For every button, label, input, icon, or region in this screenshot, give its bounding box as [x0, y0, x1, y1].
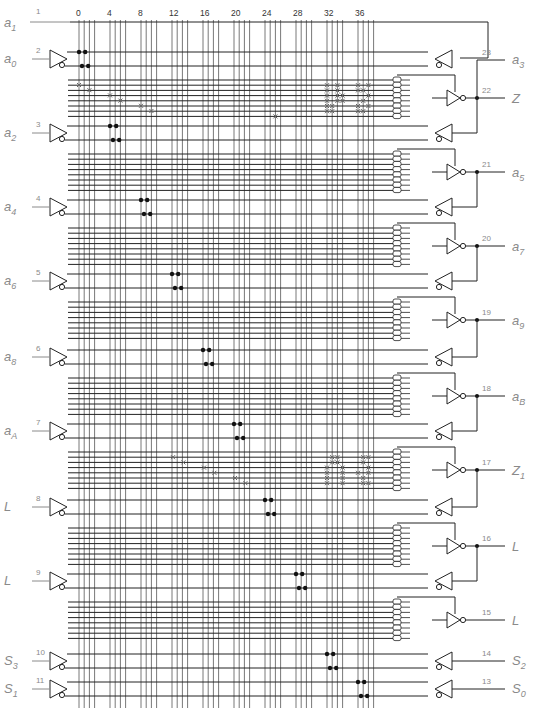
and-gate-icon [393, 235, 401, 240]
column-number: 12 [169, 8, 179, 18]
connection-dot [235, 436, 239, 440]
pal-logic-diagram: 04812162024283236a11a02a23a44a65a86aA7L8… [0, 0, 540, 718]
connection-dot [365, 694, 369, 698]
and-gate-icon [393, 82, 401, 87]
connection-dot [142, 212, 146, 216]
and-gate-icon [393, 411, 401, 416]
invert-bubble-icon [59, 664, 64, 669]
and-gate-icon [393, 535, 401, 540]
invert-bubble-icon [436, 692, 441, 697]
connection-dot [201, 348, 205, 352]
invert-bubble-icon [460, 95, 465, 100]
pin-number: 21 [482, 160, 491, 169]
and-gate-icon [393, 256, 401, 261]
column-number: 0 [76, 8, 81, 18]
and-gate-icon [393, 225, 401, 230]
and-gate-icon [393, 108, 401, 113]
invert-bubble-icon [460, 243, 465, 248]
and-gate-icon [393, 465, 401, 470]
connection-dot [111, 138, 115, 142]
connection-dot [117, 138, 121, 142]
and-gate-icon [393, 406, 401, 411]
connection-dot [170, 272, 174, 276]
column-number: 28 [293, 8, 303, 18]
and-gate-icon [393, 182, 401, 187]
input-label: S1 [4, 681, 18, 699]
output-inverter-icon [447, 238, 460, 254]
input-buffer-6 [50, 348, 67, 366]
and-gate-icon [393, 230, 401, 235]
connection-dot [77, 50, 81, 54]
and-gate-icon [393, 325, 401, 330]
and-gate-icon [393, 151, 401, 156]
and-gate-icon [393, 177, 401, 182]
and-gate-icon [393, 459, 401, 464]
column-number: 36 [355, 8, 365, 18]
input-label: L [4, 573, 11, 588]
invert-bubble-icon [460, 317, 465, 322]
invert-bubble-icon [460, 467, 465, 472]
output-label: a7 [512, 239, 525, 257]
invert-bubble-icon [59, 510, 64, 515]
input-label: aA [4, 423, 17, 441]
column-number: 8 [138, 8, 143, 18]
column-number: 20 [231, 8, 241, 18]
and-gate-icon [393, 375, 401, 380]
pin-number: 16 [482, 534, 491, 543]
and-gate-icon [393, 620, 401, 625]
column-number: 4 [107, 8, 112, 18]
pin-number: 14 [482, 649, 491, 658]
and-gate-icon [393, 525, 401, 530]
and-gate-icon [393, 625, 401, 630]
invert-bubble-icon [59, 62, 64, 67]
and-gate-icon [393, 380, 401, 385]
and-gate-icon [393, 449, 401, 454]
and-gate-icon [393, 541, 401, 546]
input-buffer-10 [50, 652, 67, 670]
connection-dot [334, 666, 338, 670]
and-gate-icon [393, 454, 401, 459]
and-gate-icon [393, 551, 401, 556]
connection-dot [114, 124, 118, 128]
input-buffer-9 [50, 572, 67, 590]
and-gate-icon [393, 630, 401, 635]
input-label: a6 [4, 273, 16, 291]
connection-dot [139, 198, 143, 202]
and-gate-icon [393, 396, 401, 401]
connection-dot [238, 422, 242, 426]
invert-bubble-icon [59, 692, 64, 697]
input-buffer-5 [50, 272, 67, 290]
input-label: a0 [4, 51, 16, 69]
output-label: Z1 [511, 463, 525, 481]
input-buffer-3 [50, 124, 67, 142]
input-label-a1: a1 [4, 15, 16, 33]
pin-number: 17 [482, 458, 491, 467]
connection-dot [269, 498, 273, 502]
column-number: 32 [324, 8, 334, 18]
pin-number: 3 [36, 120, 41, 129]
connection-dot [328, 666, 332, 670]
and-gate-icon [393, 385, 401, 390]
and-gate-icon [393, 172, 401, 177]
invert-bubble-icon [59, 284, 64, 289]
invert-bubble-icon [59, 584, 64, 589]
pin-number: 9 [36, 568, 41, 577]
connection-dot [145, 198, 149, 202]
invert-bubble-icon [59, 136, 64, 141]
invert-bubble-icon [59, 210, 64, 215]
output-label: S2 [512, 653, 526, 671]
connection-dot [173, 286, 177, 290]
input-buffer-7 [50, 422, 67, 440]
and-gate-icon [393, 103, 401, 108]
connection-dot [179, 286, 183, 290]
pin-number: 15 [482, 608, 491, 617]
connection-dot [272, 512, 276, 516]
and-gate-icon [393, 530, 401, 535]
and-gate-icon [393, 156, 401, 161]
connection-dot [232, 422, 236, 426]
output-label: a9 [512, 313, 524, 331]
invert-bubble-icon [460, 169, 465, 174]
invert-bubble-icon [436, 210, 441, 215]
connection-dot [148, 212, 152, 216]
connection-dot [210, 362, 214, 366]
